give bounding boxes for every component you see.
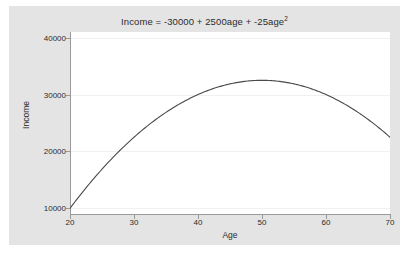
x-tick-label: 70 (370, 218, 410, 227)
chart-figure: Income = -30000 + 2500age + -25age2 1000… (9, 6, 400, 245)
x-tick-label: 60 (306, 218, 346, 227)
x-tick-label: 50 (242, 218, 282, 227)
x-tick-label: 30 (114, 218, 154, 227)
x-tick-mark (326, 215, 327, 219)
chart-title: Income = -30000 + 2500age + -25age2 (9, 15, 400, 27)
x-tick-label: 20 (50, 218, 90, 227)
x-tick-mark (390, 215, 391, 219)
y-tick-mark (66, 38, 70, 39)
income-curve (70, 32, 390, 214)
y-tick-mark (66, 208, 70, 209)
x-tick-mark (70, 215, 71, 219)
x-tick-label: 40 (178, 218, 218, 227)
y-tick-mark (66, 151, 70, 152)
x-axis-label: Age (70, 230, 390, 240)
x-tick-mark (262, 215, 263, 219)
y-tick-mark (66, 95, 70, 96)
x-axis-line (70, 214, 391, 215)
y-tick-label: 40000 (22, 33, 66, 42)
x-tick-mark (198, 215, 199, 219)
y-tick-label: 10000 (22, 204, 66, 213)
chart-title-text: Income = -30000 + 2500age + -25age (121, 16, 284, 27)
x-tick-mark (134, 215, 135, 219)
y-axis-ticks: 10000200003000040000 (9, 6, 66, 245)
y-tick-label: 20000 (22, 147, 66, 156)
chart-title-exponent: 2 (284, 15, 288, 22)
y-axis-label: Income (21, 85, 31, 145)
